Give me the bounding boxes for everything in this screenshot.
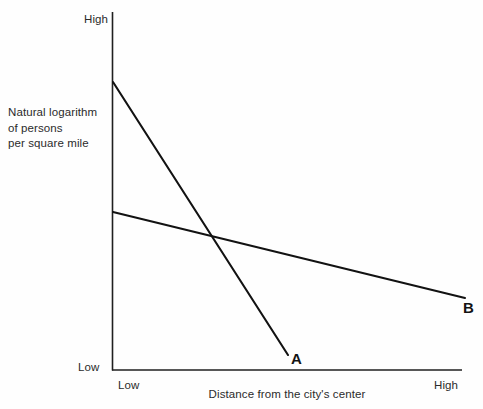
density-gradient-chart: High Low Low High Natural logarithm of p…	[0, 0, 483, 409]
series-label-a: A	[291, 350, 302, 367]
y-axis-tick-high: High	[84, 13, 108, 25]
x-axis-title: Distance from the city's center	[112, 388, 462, 400]
y-axis-title-line-1: Natural logarithm	[8, 105, 97, 121]
plot-area	[0, 0, 483, 409]
y-axis-tick-low: Low	[78, 361, 99, 373]
series-line-b	[113, 212, 465, 298]
y-axis-title: Natural logarithm of persons per square …	[8, 105, 97, 152]
y-axis-title-line-2: of persons	[8, 121, 97, 137]
y-axis-title-line-3: per square mile	[8, 136, 97, 152]
series-label-b: B	[463, 299, 474, 316]
